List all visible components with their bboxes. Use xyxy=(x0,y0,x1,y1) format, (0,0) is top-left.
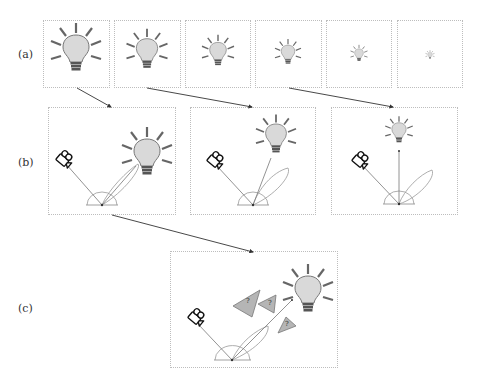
diagram-overlay xyxy=(0,0,478,386)
camera-icon-b2 xyxy=(207,150,227,169)
occluder-label-3: ? xyxy=(285,320,289,328)
arrow-a4-b3 xyxy=(289,88,393,107)
bulb-icon-b2 xyxy=(256,114,296,152)
arrows xyxy=(77,88,393,252)
bulb-icon-a2 xyxy=(127,29,168,68)
occluder-2 xyxy=(258,295,276,313)
arrow-a1-b1 xyxy=(77,88,111,107)
occluder-label-2: ? xyxy=(268,299,272,307)
bulb-icon-a6 xyxy=(426,50,435,59)
bulb-icon-b3 xyxy=(385,116,413,142)
camera-icon-b1 xyxy=(56,149,76,168)
bulb-icon-a4 xyxy=(275,39,301,64)
scene-b1 xyxy=(56,127,172,206)
arrow-b1-c xyxy=(112,215,253,252)
arrow-a2-b2 xyxy=(147,88,252,107)
bulb-icon-a1 xyxy=(51,23,101,71)
scene-b2 xyxy=(207,114,296,206)
bulb-icon-a3 xyxy=(202,35,234,65)
scene-b3 xyxy=(352,116,433,205)
bulb-icon-b1 xyxy=(122,127,172,175)
camera-icon-b3 xyxy=(352,150,372,169)
occluder-label-1: ? xyxy=(246,297,250,305)
bulb-icon-c xyxy=(283,264,333,312)
camera-icon-c xyxy=(188,307,208,326)
scene-c xyxy=(188,264,333,361)
bulb-icon-a5 xyxy=(351,45,368,61)
